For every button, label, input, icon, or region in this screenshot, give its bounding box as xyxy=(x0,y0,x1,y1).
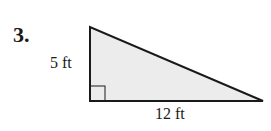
right-triangle-figure xyxy=(0,0,271,131)
base-label: 12 ft xyxy=(155,106,185,122)
height-label: 5 ft xyxy=(50,55,72,71)
triangle-shape xyxy=(90,27,263,101)
